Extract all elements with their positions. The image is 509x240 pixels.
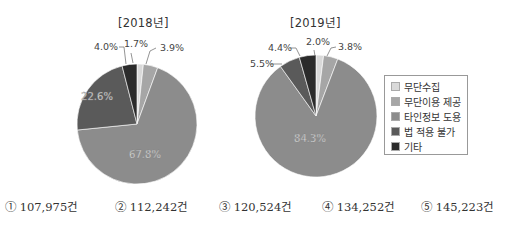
answer-choice-5[interactable]: ⑤ 145,223건 <box>421 198 494 214</box>
leader-line-0-1 <box>146 48 156 64</box>
answer-number: ④ <box>322 200 333 214</box>
answer-text: 134,252건 <box>337 200 396 214</box>
data-label-0-0: 1.7% <box>124 38 148 49</box>
data-label-1-4: 4.4% <box>268 42 292 53</box>
legend-swatch <box>391 142 400 151</box>
chart-legend: 무단수집 무단이용 제공 타인정보 도용 법 적용 불가 기타 <box>384 75 468 155</box>
data-label-0-4: 4.0% <box>94 41 118 52</box>
answer-number: ① <box>5 200 16 214</box>
leader-line-0-4 <box>119 47 126 64</box>
legend-item: 타인정보 도용 <box>391 109 467 124</box>
answer-choice-2[interactable]: ② 112,242건 <box>115 198 188 214</box>
answer-number: ② <box>115 200 126 214</box>
answer-number: ⑤ <box>421 200 432 214</box>
data-label-0-3: 22.6% <box>81 91 113 102</box>
legend-item: 무단이용 제공 <box>391 94 467 109</box>
answer-number: ③ <box>219 200 230 214</box>
data-label-1-1: 3.8% <box>338 41 362 52</box>
data-label-0-2: 67.8% <box>129 149 161 160</box>
legend-label: 법 적용 불가 <box>404 124 455 139</box>
answer-choice-1[interactable]: ① 107,975건 <box>5 198 78 214</box>
answer-choice-4[interactable]: ④ 134,252건 <box>322 198 395 214</box>
leader-line-1-1 <box>327 47 336 56</box>
legend-swatch <box>391 127 400 136</box>
legend-item: 기타 <box>391 139 467 154</box>
legend-swatch <box>391 82 400 91</box>
legend-item: 무단수집 <box>391 79 467 94</box>
data-label-1-0: 2.0% <box>306 36 330 47</box>
answer-text: 107,975건 <box>20 200 79 214</box>
legend-swatch <box>391 112 400 121</box>
answer-text: 145,223건 <box>436 200 495 214</box>
data-label-1-2: 84.3% <box>294 133 326 144</box>
answer-text: 120,524건 <box>234 200 293 214</box>
legend-swatch <box>391 97 400 106</box>
legend-label: 무단수집 <box>404 79 440 94</box>
answer-text: 112,242건 <box>130 200 189 214</box>
leader-line-0-0 <box>131 53 133 63</box>
legend-label: 무단이용 제공 <box>404 94 461 109</box>
legend-label: 타인정보 도용 <box>404 109 461 124</box>
answer-choice-3[interactable]: ③ 120,524건 <box>219 198 292 214</box>
data-label-1-3: 5.5% <box>250 58 274 69</box>
legend-label: 기타 <box>404 139 422 154</box>
legend-item: 법 적용 불가 <box>391 124 467 139</box>
data-label-0-1: 3.9% <box>160 42 184 53</box>
